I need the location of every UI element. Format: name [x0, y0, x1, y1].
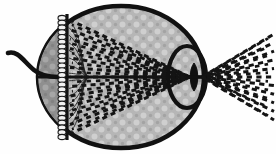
light-ray-dash — [271, 110, 274, 111]
light-ray-dash — [221, 79, 226, 80]
light-ray-dash — [270, 93, 274, 94]
light-ray-dash — [78, 103, 83, 104]
light-ray-dash — [137, 95, 141, 96]
light-ray-dash — [265, 89, 268, 90]
light-ray-dash — [77, 24, 82, 26]
light-ray-dash — [114, 47, 119, 49]
light-ray-dash — [119, 66, 124, 67]
light-ray-dash — [244, 62, 248, 63]
light-ray-dash — [96, 55, 101, 56]
light-ray-dash — [107, 89, 112, 90]
light-ray-dash — [144, 85, 148, 86]
light-ray-dash — [225, 85, 229, 86]
light-ray-dash — [98, 95, 102, 96]
light-ray-dash — [128, 98, 132, 99]
light-ray-dash — [242, 57, 246, 59]
light-ray-dash — [73, 59, 78, 60]
light-ray-dash — [88, 97, 92, 98]
light-ray-dash — [92, 46, 97, 48]
light-ray-dash — [91, 61, 96, 62]
light-ray-dash — [128, 55, 132, 56]
light-ray-dash — [181, 79, 185, 81]
light-ray-dash — [143, 71, 147, 72]
light-ray-dash — [107, 60, 111, 61]
light-ray-dash — [119, 51, 123, 52]
light-ray-dash — [253, 59, 257, 60]
light-ray-dash — [135, 87, 139, 88]
light-ray-dash — [84, 114, 88, 115]
light-ray-dash — [79, 55, 83, 56]
light-ray-dash — [72, 129, 74, 130]
light-ray-dash — [145, 89, 149, 90]
light-ray-dash — [245, 68, 250, 69]
light-ray-dash — [162, 74, 166, 75]
photoreceptor-cell — [58, 134, 66, 139]
light-ray-dash — [78, 50, 83, 51]
light-ray-dash — [79, 98, 83, 99]
light-ray-dash — [137, 58, 141, 59]
light-ray-dash — [121, 46, 125, 48]
light-ray-dash — [89, 92, 94, 93]
light-ray-dash — [77, 111, 82, 113]
light-ray-dash — [75, 117, 79, 118]
light-ray-dash — [144, 68, 148, 69]
light-ray-dash — [237, 94, 242, 96]
eye-diagram-figure — [0, 0, 276, 154]
light-ray-dash — [177, 81, 182, 83]
light-ray-dash — [87, 31, 91, 33]
light-ray-dash — [77, 128, 82, 130]
light-ray-dash — [236, 84, 241, 85]
light-ray-dash — [224, 65, 228, 67]
light-ray-dash — [86, 108, 91, 110]
light-ray-dash — [78, 63, 82, 64]
light-ray-dash — [135, 66, 139, 67]
light-ray-dash — [162, 80, 166, 81]
light-ray-dash — [125, 69, 129, 70]
light-ray-dash — [131, 90, 136, 91]
light-ray-dash — [112, 100, 117, 102]
light-ray-dash — [231, 80, 236, 81]
light-ray-dash — [267, 60, 272, 61]
light-ray-dash — [102, 116, 107, 118]
light-ray-dash — [153, 72, 157, 73]
light-ray-dash — [245, 98, 250, 100]
light-ray-dash — [263, 56, 267, 57]
light-ray-dash — [105, 57, 110, 58]
light-ray-dash — [70, 105, 74, 106]
light-ray-dash — [119, 43, 124, 45]
light-ray-dash — [212, 78, 217, 79]
light-ray-dash — [82, 60, 87, 61]
light-ray-dash — [127, 47, 132, 49]
light-ray-dash — [153, 84, 157, 85]
light-ray-dash — [249, 65, 254, 66]
light-ray-dash — [80, 34, 85, 36]
light-ray-dash — [226, 71, 231, 72]
light-ray-dash — [108, 54, 112, 55]
light-ray-dash — [162, 71, 166, 72]
photoreceptor-cell-column — [58, 15, 66, 139]
light-ray-dash — [244, 91, 248, 92]
light-ray-dash — [234, 73, 239, 74]
light-ray-dash — [114, 94, 119, 95]
light-ray-dash — [111, 113, 116, 115]
light-ray-dash — [117, 57, 121, 58]
light-ray-dash — [75, 40, 80, 42]
light-ray-dash — [90, 104, 94, 105]
light-ray-dash — [239, 67, 244, 68]
light-ray-dash — [70, 49, 74, 50]
light-ray-dash — [147, 58, 151, 60]
light-ray-dash — [265, 44, 270, 46]
light-ray-dash — [98, 91, 103, 92]
light-ray-dash — [253, 70, 258, 71]
light-ray-dash — [78, 125, 82, 127]
light-ray-dash — [93, 111, 97, 112]
light-ray-dash — [105, 96, 110, 97]
light-ray-dash — [137, 69, 142, 70]
light-ray-dash — [261, 91, 266, 92]
light-ray-dash — [269, 85, 274, 86]
light-ray-dash — [128, 67, 133, 68]
light-ray-dash — [88, 57, 92, 58]
light-ray-dash — [72, 25, 74, 26]
light-ray-dash — [119, 101, 123, 102]
light-ray-dash — [108, 99, 112, 100]
